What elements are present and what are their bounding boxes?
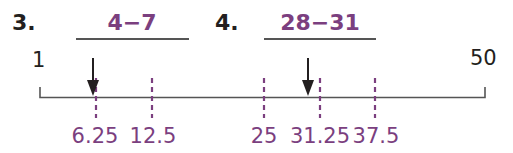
tick-label: 12.5: [130, 124, 177, 148]
tick-label: 25: [251, 124, 278, 148]
tick-label: 37.5: [353, 124, 400, 148]
arrow-icon: [87, 58, 99, 96]
arrow-icon: [302, 58, 314, 96]
axis-line: [40, 87, 485, 98]
tick-label: 31.25: [290, 124, 350, 148]
tick-label: 6.25: [72, 124, 119, 148]
